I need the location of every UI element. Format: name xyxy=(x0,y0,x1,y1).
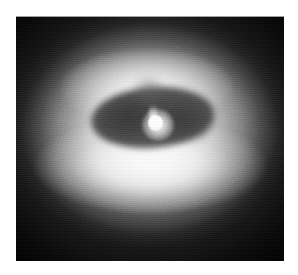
detector-grain xyxy=(16,16,284,261)
astronomical-image-plate: Grayscale telescope image of a galaxy: a… xyxy=(16,16,284,261)
plate-top-edge xyxy=(16,16,284,17)
figure-frame: Grayscale telescope image of a galaxy: a… xyxy=(0,0,298,275)
figure-caption xyxy=(0,0,1,1)
